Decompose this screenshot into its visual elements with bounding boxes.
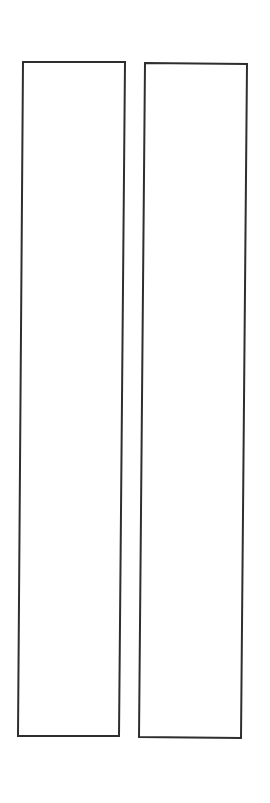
diagram-canvas — [0, 0, 270, 803]
right-rectangle — [139, 63, 247, 738]
left-rectangle — [18, 62, 125, 736]
